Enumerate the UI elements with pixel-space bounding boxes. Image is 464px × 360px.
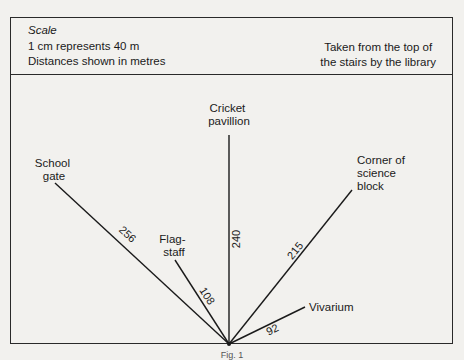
label-science-block: Corner of science block [357,154,408,192]
line-school-gate [55,183,229,344]
label-vivarium: Vivarium [309,301,354,313]
line-science-block [229,190,352,344]
distance-school-gate: 256 [117,223,139,244]
origin-point [227,342,231,346]
distance-flag-staff: 108 [197,285,217,307]
distance-cricket-pavillion: 240 [230,230,242,248]
distance-vivarium: 92 [264,321,280,337]
label-school-gate: School gate [35,157,73,182]
label-flag-staff: Flag- staff [159,233,188,258]
distance-science-block: 215 [284,240,305,262]
label-cricket-pavillion: Cricket pavillion [208,102,250,127]
figure-caption: Fig. 1 [0,350,464,360]
